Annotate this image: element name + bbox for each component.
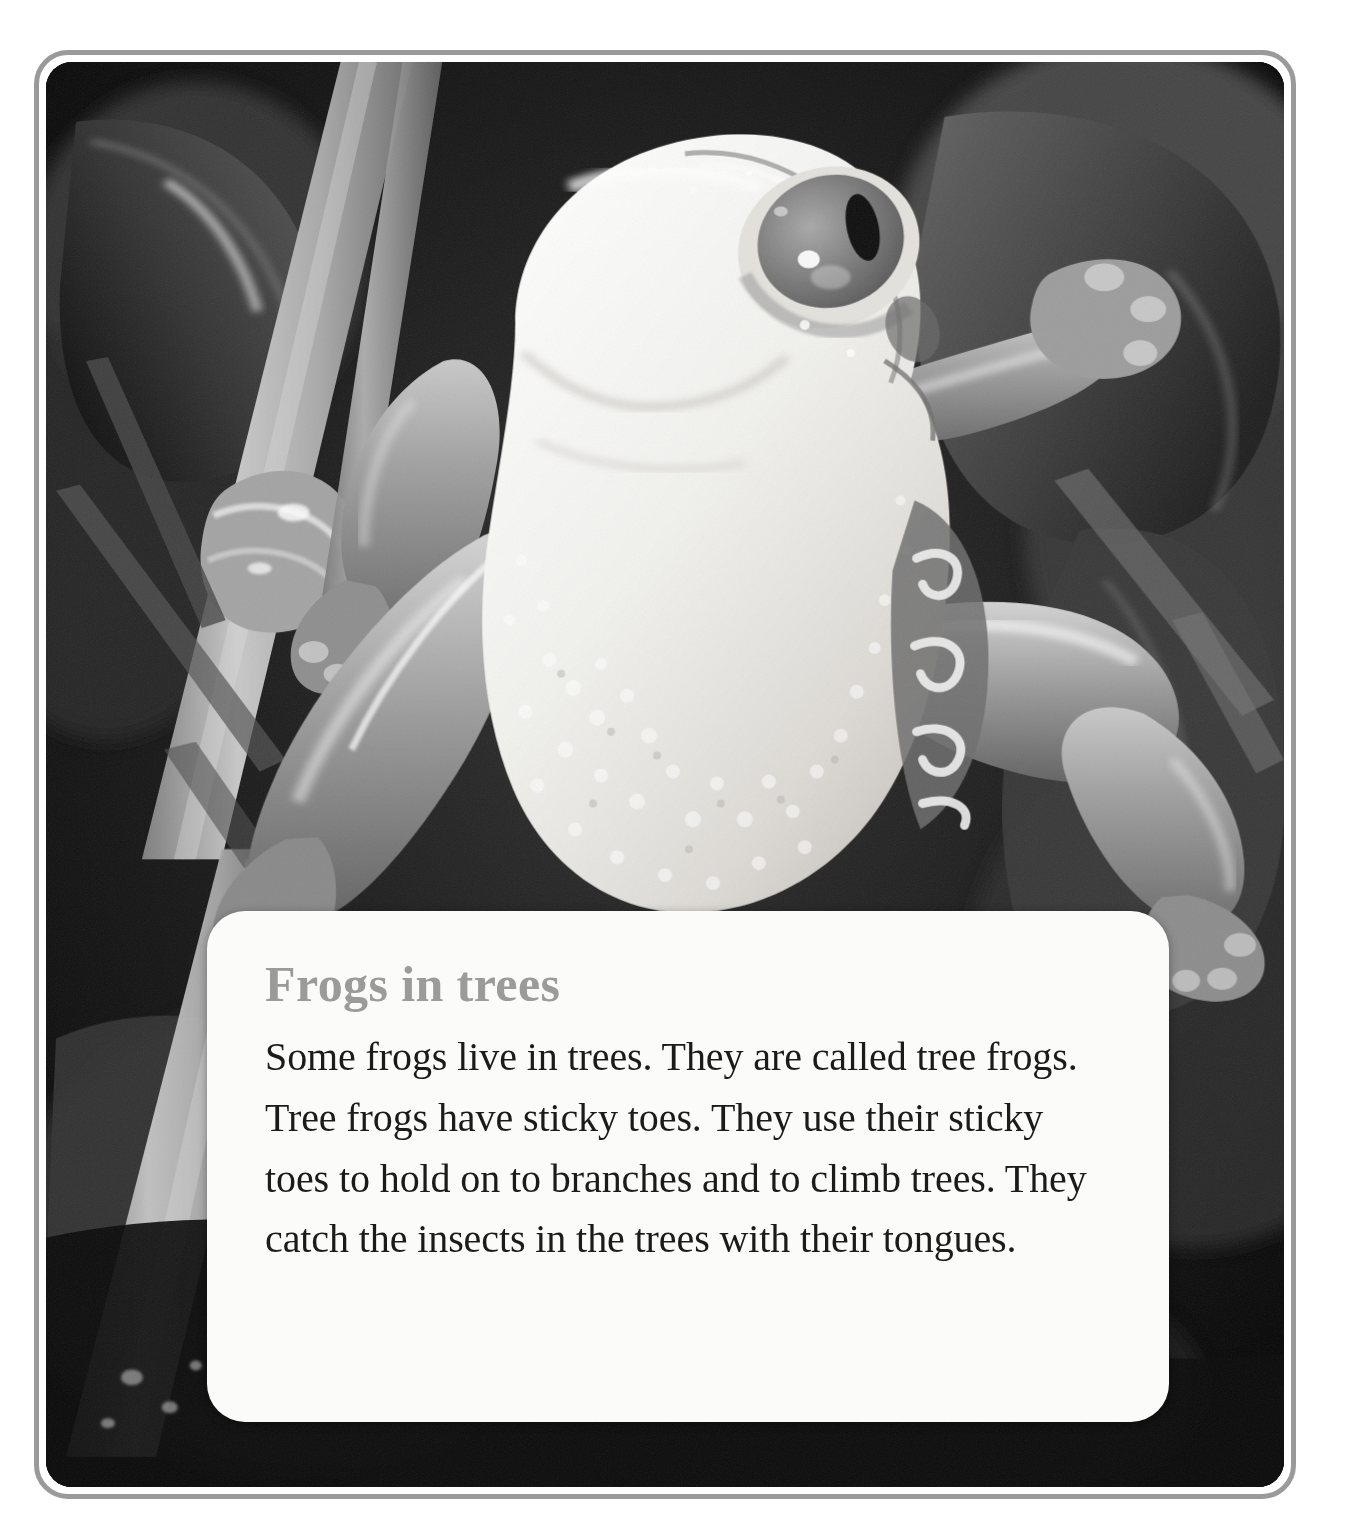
page-title: Frogs in trees — [265, 959, 1113, 1009]
photo-frame: Frogs in trees Some frogs live in trees.… — [34, 50, 1296, 1499]
tree-frog-photo: Frogs in trees Some frogs live in trees.… — [46, 62, 1284, 1487]
book-page: Frogs in trees Some frogs live in trees.… — [0, 0, 1345, 1520]
body-text: Some frogs live in trees. They are calle… — [265, 1009, 1113, 1270]
text-card: Frogs in trees Some frogs live in trees.… — [207, 911, 1169, 1422]
